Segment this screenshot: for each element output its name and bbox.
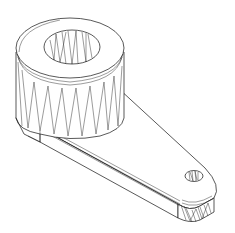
central-bore bbox=[44, 30, 100, 64]
tip-hole bbox=[185, 171, 203, 182]
cad-drawing: Servo horn / lever arm (isometric wirefr… bbox=[0, 0, 235, 233]
